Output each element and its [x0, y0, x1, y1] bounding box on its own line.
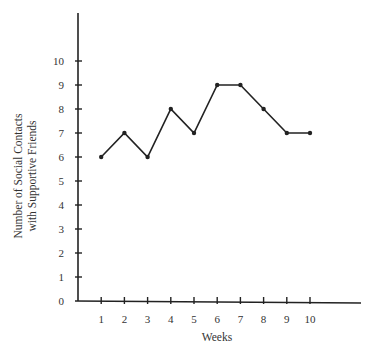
x-axis-title: Weeks [202, 331, 233, 343]
data-point [285, 131, 289, 135]
y-axis: 012345678910 [53, 13, 82, 307]
y-axis-title-line-2: with Supportive Friends [26, 120, 39, 232]
y-tick-label: 10 [53, 55, 65, 67]
y-tick-label: 0 [59, 295, 65, 307]
x-tick-label: 3 [145, 313, 151, 325]
x-tick-label: 5 [191, 313, 197, 325]
y-tick-label: 3 [59, 223, 65, 235]
y-tick-label: 8 [59, 103, 65, 115]
x-tick-label: 6 [214, 313, 220, 325]
y-tick-label: 4 [59, 199, 65, 211]
y-tick-label: 5 [59, 175, 65, 187]
y-tick-label: 1 [59, 271, 65, 283]
x-tick-label: 8 [261, 313, 267, 325]
x-axis: 12345678910 [75, 297, 361, 325]
data-series [99, 83, 312, 159]
x-tick-label: 2 [122, 313, 128, 325]
data-point [261, 107, 265, 111]
data-line [101, 85, 310, 157]
y-tick-label: 2 [59, 247, 65, 259]
x-tick-label: 7 [238, 313, 244, 325]
y-tick-label: 7 [59, 127, 65, 139]
y-axis-title-line-1: Number of Social Contacts [12, 113, 24, 238]
y-tick-label: 9 [59, 79, 65, 91]
x-tick-label: 9 [284, 313, 290, 325]
x-tick-label: 4 [168, 313, 174, 325]
data-point [238, 83, 242, 87]
data-point [122, 131, 126, 135]
x-tick-label: 1 [98, 313, 104, 325]
x-tick-label: 10 [305, 313, 317, 325]
data-point [308, 131, 312, 135]
data-point [99, 155, 103, 159]
data-point [215, 83, 219, 87]
data-point [192, 131, 196, 135]
data-point [169, 107, 173, 111]
line-chart: 012345678910 12345678910 Weeks Number of… [0, 0, 367, 357]
y-tick-label: 6 [59, 151, 65, 163]
data-point [145, 155, 149, 159]
y-axis-title: Number of Social Contacts with Supportiv… [12, 113, 39, 238]
